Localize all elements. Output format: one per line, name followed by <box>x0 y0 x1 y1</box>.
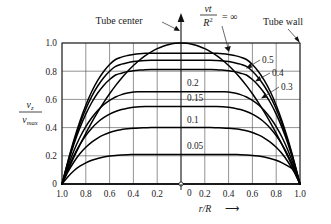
x-ticklabel-right-1.0: 1.0 <box>294 189 306 199</box>
parameter-equals-infinity: = ∞ <box>222 11 237 22</box>
x-ticklabel-left-0.4: 0.4 <box>128 189 140 199</box>
curve-label-0.3: 0.3 <box>281 82 293 92</box>
y-ticklabel-0.8: 0.8 <box>45 67 57 77</box>
parameter-denominator-text: R <box>202 17 209 28</box>
x-axis-label-symbol: r/R <box>199 203 212 214</box>
parameter-numerator-text: νt <box>204 3 211 14</box>
parameter-denominator-exponent: 2 <box>209 16 212 23</box>
curve-label-0: 0 <box>187 188 192 198</box>
x-ticklabel-left-1.0: 1.0 <box>56 189 68 199</box>
x-ticklabel-left-0.2: 0.2 <box>151 189 163 199</box>
y-ticklabel-0.4: 0.4 <box>45 123 57 133</box>
y-axis-label-numerator-sub: z <box>30 104 34 111</box>
x-ticklabel-left-0.6: 0.6 <box>104 189 116 199</box>
x-ticklabel-right-0.4: 0.4 <box>223 189 235 199</box>
curve-label-0.4: 0.4 <box>272 68 284 78</box>
x-axis-label-arrow: ⟶ <box>225 203 239 214</box>
x-ticklabel-right-0.2: 0.2 <box>199 189 211 199</box>
x-ticklabel-left-0.8: 0.8 <box>80 189 92 199</box>
y-ticklabel-0.2: 0.2 <box>45 151 57 161</box>
curve-label-0.5: 0.5 <box>262 55 274 65</box>
curve-label-0.1: 0.1 <box>187 115 199 125</box>
y-axis-label-denominator-sub: max <box>27 119 38 126</box>
chart-svg: 1.0 0.8 0.6 0.4 0.2 0 1.0 0.8 0.6 0.4 0.… <box>0 0 331 224</box>
y-ticklabel-0.6: 0.6 <box>45 95 57 105</box>
tube-wall-label: Tube wall <box>263 16 303 27</box>
tube-center-label: Tube center <box>95 15 143 26</box>
y-ticklabel-1.0: 1.0 <box>45 38 57 48</box>
curve-label-0.05: 0.05 <box>187 141 204 151</box>
x-ticklabel-right-0.6: 0.6 <box>247 189 259 199</box>
x-ticklabel-right-0.8: 0.8 <box>270 189 282 199</box>
parameter-numerator: νt <box>204 3 211 14</box>
curve-label-0.15: 0.15 <box>187 93 204 103</box>
velocity-profile-figure: 1.0 0.8 0.6 0.4 0.2 0 1.0 0.8 0.6 0.4 0.… <box>0 0 331 224</box>
curve-label-0.2: 0.2 <box>187 78 199 88</box>
